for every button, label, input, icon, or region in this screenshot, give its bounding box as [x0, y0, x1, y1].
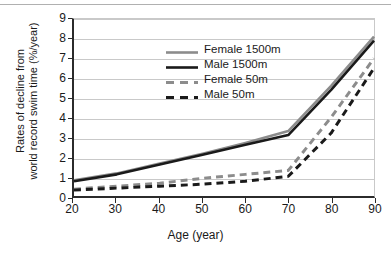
x-axis-tick-label: 40 [144, 203, 174, 215]
y-axis-tick-label: 9 [44, 12, 66, 24]
x-axis-tick-label: 90 [360, 203, 390, 215]
x-axis-tick-label: 30 [100, 203, 130, 215]
x-axis-tick-label: 70 [273, 203, 303, 215]
y-axis-label-line2: world record swim time (%/year) [27, 1, 40, 201]
legend-label: Male 1500m [204, 59, 267, 71]
legend-item: Female 1500m [166, 43, 281, 56]
x-axis-tick-mark [115, 198, 116, 203]
legend-item: Male 1500m [166, 58, 281, 71]
x-axis-tick-mark [159, 198, 160, 203]
chart-legend: Female 1500mMale 1500mFemale 50mMale 50m [166, 43, 281, 101]
y-axis-label-line1: Rates of decline from [14, 1, 27, 201]
y-axis-tick-label: 8 [44, 32, 66, 44]
x-axis-tick-mark [375, 198, 376, 203]
y-axis-tick-label: 5 [44, 92, 66, 104]
y-axis-tick-label: 4 [44, 112, 66, 124]
y-axis-tick-label: 7 [44, 52, 66, 64]
x-axis-tick-label: 60 [230, 203, 260, 215]
x-axis-tick-label: 80 [317, 203, 347, 215]
legend-item: Male 50m [166, 88, 281, 101]
y-axis-tick-label: 6 [44, 72, 66, 84]
legend-swatch [166, 89, 198, 100]
chart-figure: 0123456789 Female 1500mMale 1500mFemale … [0, 0, 391, 254]
legend-item: Female 50m [166, 73, 281, 86]
y-axis-tick-label: 1 [44, 172, 66, 184]
legend-label: Female 1500m [204, 44, 281, 56]
x-axis-tick-label: 20 [57, 203, 87, 215]
x-axis-tick-mark [288, 198, 289, 203]
legend-label: Male 50m [204, 89, 255, 101]
legend-swatch [166, 74, 198, 85]
y-axis-tick-label: 2 [44, 152, 66, 164]
legend-label: Female 50m [204, 74, 268, 86]
legend-swatch [166, 59, 198, 70]
x-axis-tick-mark [332, 198, 333, 203]
legend-swatch [166, 44, 198, 55]
x-axis-tick-mark [72, 198, 73, 203]
x-axis-tick-mark [245, 198, 246, 203]
plot-area: Female 1500mMale 1500mFemale 50mMale 50m [72, 18, 375, 198]
x-axis-label: Age (year) [0, 228, 391, 242]
x-axis-tick-label: 50 [187, 203, 217, 215]
y-axis-label: Rates of decline from world record swim … [14, 1, 40, 201]
x-axis-tick-mark [202, 198, 203, 203]
y-axis-tick-label: 3 [44, 132, 66, 144]
